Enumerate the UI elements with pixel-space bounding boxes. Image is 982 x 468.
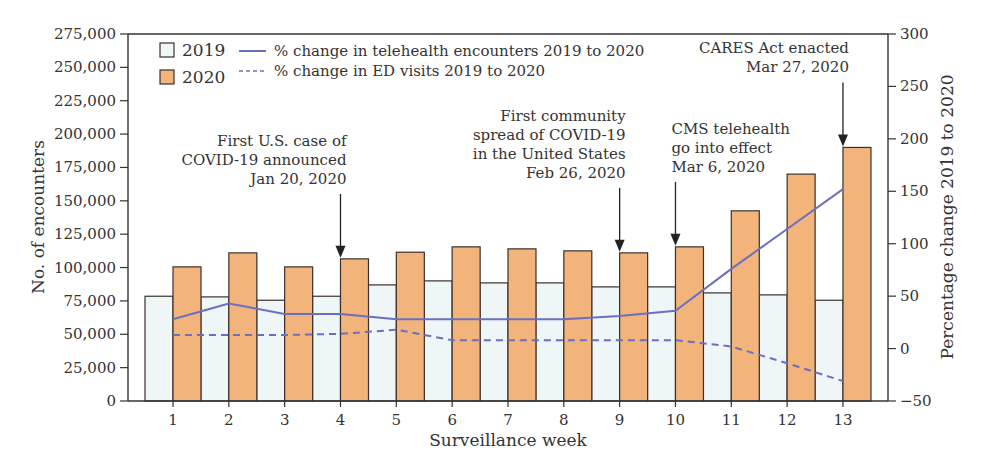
annotation-text: CMS telehealth bbox=[671, 120, 790, 138]
y-tick-label: 200,000 bbox=[54, 125, 116, 143]
y-tick-label: 75,000 bbox=[64, 292, 117, 310]
legend-label-2020: 2020 bbox=[182, 67, 225, 87]
annotation-text: Feb 26, 2020 bbox=[526, 164, 626, 182]
bar-2019-week-1 bbox=[145, 296, 173, 401]
y2-tick-label: 150 bbox=[900, 182, 929, 200]
bar-2020-week-12 bbox=[787, 174, 815, 401]
y-tick-label: 25,000 bbox=[64, 359, 117, 377]
y2-axis-title: Percentage change 2019 to 2020 bbox=[937, 74, 957, 359]
annotation-text: COVID-19 announced bbox=[181, 151, 346, 169]
x-tick-label: 3 bbox=[280, 411, 290, 429]
bar-2019-week-6 bbox=[424, 281, 452, 401]
annotation-text: Mar 27, 2020 bbox=[746, 58, 849, 76]
bar-2020-week-6 bbox=[452, 247, 480, 401]
arrow-down-icon bbox=[838, 134, 848, 146]
bar-2020-week-7 bbox=[508, 249, 536, 401]
y-tick-label: 175,000 bbox=[54, 158, 116, 176]
bar-2020-week-8 bbox=[564, 251, 592, 401]
x-tick-label: 8 bbox=[559, 411, 569, 429]
bar-2019-week-13 bbox=[815, 300, 843, 401]
x-tick-label: 1 bbox=[168, 411, 178, 429]
bar-2020-week-9 bbox=[620, 253, 648, 401]
x-tick-label: 4 bbox=[336, 411, 346, 429]
y-tick-label: 150,000 bbox=[54, 192, 116, 210]
y-tick-label: 0 bbox=[106, 392, 116, 410]
legend-label-telehealth: % change in telehealth encounters 2019 t… bbox=[274, 42, 644, 60]
bar-2019-week-3 bbox=[257, 300, 285, 401]
y-tick-label: 100,000 bbox=[54, 259, 116, 277]
legend-label-ed: % change in ED visits 2019 to 2020 bbox=[274, 62, 545, 80]
annotation-text: in the United States bbox=[473, 145, 626, 163]
y2-tick-label: 100 bbox=[900, 235, 929, 253]
y-axis-title: No. of encounters bbox=[28, 140, 48, 294]
bar-2020-week-11 bbox=[731, 211, 759, 401]
x-tick-label: 6 bbox=[447, 411, 457, 429]
y2-tick-label: 50 bbox=[900, 287, 919, 305]
combo-chart: First U.S. case ofCOVID-19 announcedJan … bbox=[0, 0, 982, 468]
bar-2020-week-5 bbox=[396, 252, 424, 401]
annotation-text: Jan 20, 2020 bbox=[248, 170, 346, 188]
bar-2019-week-5 bbox=[368, 285, 396, 401]
x-tick-label: 5 bbox=[392, 411, 402, 429]
bar-2020-week-10 bbox=[675, 247, 703, 401]
bar-2019-week-12 bbox=[759, 295, 787, 401]
arrow-down-icon bbox=[335, 246, 345, 258]
y2-tick-label: 250 bbox=[900, 77, 929, 95]
legend-label-2019: 2019 bbox=[182, 40, 225, 60]
y2-tick-label: 0 bbox=[900, 340, 910, 358]
y-tick-label: 275,000 bbox=[54, 25, 116, 43]
bar-2019-week-4 bbox=[312, 296, 340, 401]
x-tick-label: 10 bbox=[666, 411, 685, 429]
y2-tick-label: −50 bbox=[900, 392, 932, 410]
annotation-text: First community bbox=[500, 107, 626, 125]
annotation-text: First U.S. case of bbox=[217, 132, 348, 150]
bar-2020-week-13 bbox=[843, 147, 871, 401]
annotation-text: Mar 6, 2020 bbox=[671, 158, 765, 176]
y2-tick-label: 200 bbox=[900, 130, 929, 148]
arrow-down-icon bbox=[615, 240, 625, 252]
arrow-down-icon bbox=[670, 234, 680, 246]
legend: 2019 2020 % change in telehealth encount… bbox=[160, 40, 644, 87]
bar-2020-week-1 bbox=[173, 267, 201, 401]
bar-2019-week-8 bbox=[536, 283, 564, 401]
y-tick-label: 250,000 bbox=[54, 58, 116, 76]
x-tick-label: 7 bbox=[503, 411, 513, 429]
bar-2019-week-10 bbox=[647, 287, 675, 401]
x-tick-label: 2 bbox=[224, 411, 234, 429]
x-tick-label: 13 bbox=[833, 411, 852, 429]
bar-2020-week-2 bbox=[229, 253, 257, 401]
x-tick-label: 11 bbox=[722, 411, 741, 429]
bar-2019-week-9 bbox=[592, 287, 620, 401]
y-tick-label: 225,000 bbox=[54, 92, 116, 110]
bar-2019-week-2 bbox=[201, 297, 229, 401]
y2-tick-label: 300 bbox=[900, 25, 929, 43]
annotation-text: spread of COVID-19 bbox=[473, 126, 626, 144]
y-tick-label: 125,000 bbox=[54, 225, 116, 243]
y-tick-label: 50,000 bbox=[64, 325, 117, 343]
legend-swatch-2019 bbox=[160, 43, 174, 57]
bar-2020-week-4 bbox=[340, 259, 368, 401]
annotation-text: CARES Act enacted bbox=[699, 39, 849, 57]
annotation-text: go into effect bbox=[671, 139, 772, 157]
x-tick-label: 12 bbox=[778, 411, 797, 429]
x-tick-label: 9 bbox=[615, 411, 625, 429]
x-axis-title: Surveillance week bbox=[429, 430, 587, 450]
legend-swatch-2020 bbox=[160, 70, 174, 84]
bar-2019-week-7 bbox=[480, 283, 508, 401]
